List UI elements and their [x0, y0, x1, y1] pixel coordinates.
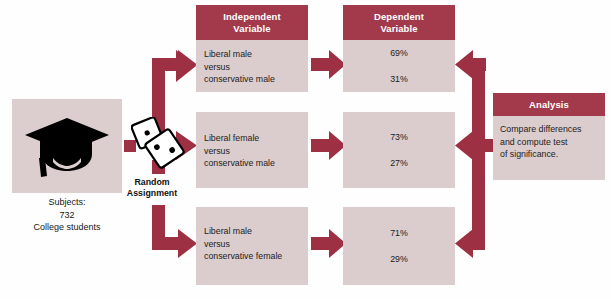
iv-condition-1-line3: conservative male — [204, 73, 308, 86]
iv-condition-3-line3: conservative female — [204, 250, 308, 263]
dependent-variable-header-line2: Variable — [374, 23, 424, 35]
diagram-canvas: Subjects: 732 College students Random As… — [0, 0, 611, 299]
iv-condition-3-line1: Liberal male — [204, 225, 308, 238]
random-assignment-label: Random Assignment — [110, 177, 194, 199]
return-arrow-row3 — [455, 229, 476, 258]
dv-box-condition-1: 69% 31% — [343, 40, 455, 92]
iv-condition-2-line3: conservative male — [204, 157, 308, 170]
arrow-branch-bottom-shaft — [152, 205, 165, 250]
graduation-cap-icon — [23, 114, 111, 178]
arrow-iv-to-dv-row3 — [311, 229, 346, 258]
analysis-body-line1: Compare differences — [500, 123, 605, 136]
dependent-variable-header-line1: Dependent — [374, 11, 424, 23]
arrow-branch-top-head — [178, 50, 197, 79]
iv-box-condition-2: Liberal female versus conservative male — [196, 112, 308, 188]
arrow-branch-bottom-horiz — [152, 237, 182, 250]
subjects-caption-line3: College students — [0, 221, 134, 234]
arrow-iv-to-dv-row2 — [311, 131, 346, 160]
dv-condition-2-value2: 27% — [390, 157, 408, 170]
subjects-caption: Subjects: 732 College students — [0, 196, 134, 234]
subjects-box — [12, 99, 122, 193]
iv-condition-2-line2: versus — [204, 145, 308, 158]
random-assignment-line1: Random — [110, 177, 194, 188]
iv-condition-1-line2: versus — [204, 61, 308, 74]
iv-box-condition-1: Liberal male versus conservative male — [196, 40, 308, 92]
analysis-body-line3: of significance. — [500, 148, 605, 161]
analysis-body: Compare differences and compute test of … — [493, 116, 605, 180]
dv-condition-1-value2: 31% — [390, 73, 408, 86]
independent-variable-header-line1: Independent — [223, 11, 281, 23]
random-assignment-line2: Assignment — [110, 188, 194, 199]
dependent-variable-header: Dependent Variable — [343, 5, 455, 40]
dv-box-condition-2: 73% 27% — [343, 112, 455, 188]
dv-condition-3-value1: 71% — [390, 227, 408, 240]
analysis-header-label: Analysis — [529, 99, 569, 111]
iv-box-condition-3: Liberal male versus conservative female — [196, 207, 308, 285]
return-spine — [472, 58, 485, 250]
return-arrow-row1 — [455, 50, 486, 79]
dv-box-condition-3: 71% 29% — [343, 207, 455, 285]
independent-variable-header-line2: Variable — [223, 23, 281, 35]
analysis-body-line2: and compute test — [500, 136, 605, 149]
dv-condition-3-value2: 29% — [390, 253, 408, 266]
arrow-branch-top-horiz — [152, 58, 182, 71]
dv-condition-1-value1: 69% — [390, 47, 408, 60]
iv-condition-3-line2: versus — [204, 238, 308, 251]
iv-condition-1-line1: Liberal male — [204, 48, 308, 61]
dv-condition-2-value1: 73% — [390, 131, 408, 144]
independent-variable-header: Independent Variable — [196, 5, 308, 40]
arrow-iv-to-dv-row1 — [311, 50, 346, 79]
analysis-header: Analysis — [493, 93, 605, 116]
iv-condition-2-line1: Liberal female — [204, 132, 308, 145]
arrow-branch-bottom-head — [178, 229, 197, 258]
dice-icon — [131, 117, 185, 169]
return-arrow-row2 — [455, 131, 476, 160]
subjects-caption-line2: 732 — [0, 209, 134, 222]
